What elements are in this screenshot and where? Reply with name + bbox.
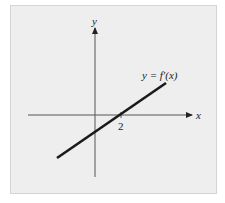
y-axis-label: y <box>91 15 97 27</box>
x-axis-label: x <box>195 109 201 121</box>
derivative-line <box>57 83 166 158</box>
chart-svg: y x y = f'(x) 2 <box>0 0 225 203</box>
curve-label: y = f'(x) <box>141 69 178 82</box>
x-tick-label-2: 2 <box>118 120 124 132</box>
